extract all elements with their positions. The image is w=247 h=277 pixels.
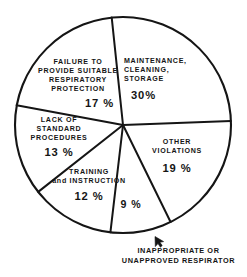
slice-value-lack: 13 % (18, 145, 100, 159)
slice-label-line: PROCEDURES (18, 134, 100, 143)
slice-label-line: OTHER (141, 138, 213, 147)
slice-label-line: TRAINING (46, 168, 132, 177)
slice-label-failure-respiratory-protection: FAILURE TO PROVIDE SUITABLE RESPIRATORY … (32, 58, 124, 111)
slice-caption-inappropriate-respirator: INAPPROPRIATE OR UNAPPROVED RESPIRATOR (112, 246, 245, 266)
slice-label-line: LACK OF (18, 116, 100, 125)
slice-label-line: PROTECTION (32, 85, 124, 94)
pie-chart-figure: MAINTENANCE, CLEANING, STORAGE 30% FAILU… (0, 0, 247, 277)
slice-label-line: FAILURE TO (32, 58, 124, 67)
slice-label-line: MAINTENANCE, (119, 57, 197, 66)
caption-line: INAPPROPRIATE OR (112, 246, 245, 256)
caption-line: UNAPPROVED RESPIRATOR (112, 256, 245, 266)
slice-label-line: STORAGE (119, 75, 197, 84)
slice-label-line: STANDARD (18, 125, 100, 134)
slice-value-maintenance: 30% (119, 88, 197, 102)
slice-label-maintenance: MAINTENANCE, CLEANING, STORAGE 30% (119, 57, 197, 103)
slice-label-inappropriate-respirator-value: 9 % (114, 198, 148, 212)
slice-value-inappropriate: 9 % (114, 198, 148, 212)
slice-label-other-violations: OTHER VIOLATIONS 19 % (141, 138, 213, 175)
slice-value-other: 19 % (141, 161, 213, 175)
slice-label-lack-standard-procedures: LACK OF STANDARD PROCEDURES 13 % (18, 116, 100, 160)
slice-value-failure: 17 % (32, 96, 124, 110)
slice-label-line: PROVIDE SUITABLE (32, 67, 124, 76)
slice-label-line: and INSTRUCTION (46, 177, 132, 186)
slice-label-line: CLEANING, (119, 66, 197, 75)
slice-label-line: RESPIRATORY (32, 76, 124, 85)
slice-label-line: VIOLATIONS (141, 147, 213, 156)
